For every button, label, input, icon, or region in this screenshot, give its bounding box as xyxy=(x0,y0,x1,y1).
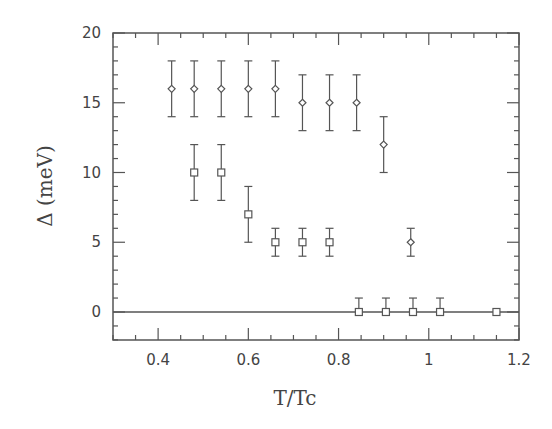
square-marker xyxy=(245,211,252,218)
diamond-marker xyxy=(168,85,175,92)
y-tick-label: 0 xyxy=(91,303,101,321)
tick-labels: 0.40.60.811.205101520 xyxy=(82,24,531,369)
chart-plot: 0.40.60.811.205101520 T/Tc Δ (meV) xyxy=(0,0,552,429)
square-marker xyxy=(355,309,362,316)
diamond-marker xyxy=(380,141,387,148)
square-marker xyxy=(272,239,279,246)
square-point xyxy=(436,298,444,315)
diamond-point xyxy=(168,61,176,117)
square-marker xyxy=(299,239,306,246)
diamond-point xyxy=(353,75,361,131)
diamond-marker xyxy=(191,85,198,92)
plot-frame xyxy=(113,33,519,340)
diamond-point xyxy=(271,61,279,117)
x-axis-title: T/Tc xyxy=(273,386,316,410)
square-point xyxy=(298,228,306,256)
diamond-marker xyxy=(299,99,306,106)
square-point xyxy=(493,309,500,316)
square-point xyxy=(190,145,198,201)
diamond-point xyxy=(326,75,334,131)
y-tick-label: 20 xyxy=(82,24,101,42)
plot-border xyxy=(113,33,519,340)
x-tick-label: 1 xyxy=(424,351,434,369)
diamond-point xyxy=(217,61,225,117)
square-point xyxy=(355,298,363,315)
square-marker xyxy=(326,239,333,246)
y-tick-label: 5 xyxy=(91,233,101,251)
x-tick-label: 1.2 xyxy=(507,351,531,369)
diamond-point xyxy=(190,61,198,117)
square-marker xyxy=(437,309,444,316)
diamond-marker xyxy=(407,239,414,246)
diamond-point xyxy=(407,228,415,256)
diamond-marker xyxy=(272,85,279,92)
x-tick-label: 0.4 xyxy=(146,351,170,369)
square-marker xyxy=(382,309,389,316)
square-point xyxy=(409,298,417,315)
diamond-marker xyxy=(218,85,225,92)
y-tick-label: 15 xyxy=(82,94,101,112)
square-point xyxy=(326,228,334,256)
diamond-point xyxy=(380,117,388,173)
diamond-marker xyxy=(353,99,360,106)
square-point xyxy=(217,145,225,201)
x-tick-label: 0.6 xyxy=(236,351,260,369)
x-tick-label: 0.8 xyxy=(327,351,351,369)
square-marker xyxy=(409,309,416,316)
diamond-marker xyxy=(326,99,333,106)
square-point xyxy=(271,228,279,256)
square-marker xyxy=(218,169,225,176)
square-marker xyxy=(493,309,500,316)
square-marker xyxy=(191,169,198,176)
data-points xyxy=(168,61,500,316)
axis-ticks xyxy=(113,33,519,340)
diamond-point xyxy=(244,61,252,117)
diamond-point xyxy=(298,75,306,131)
square-point xyxy=(244,186,252,242)
diamond-marker xyxy=(245,85,252,92)
square-point xyxy=(382,298,390,315)
y-tick-label: 10 xyxy=(82,164,101,182)
y-axis-title: Δ (meV) xyxy=(33,145,57,227)
